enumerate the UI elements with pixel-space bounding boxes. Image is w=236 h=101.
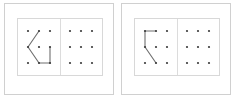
grid-dot-r0c2 <box>208 30 210 32</box>
grid-dot-r2c2 <box>166 62 168 64</box>
grid-dot-r2c2 <box>49 62 51 64</box>
panel-right-figure-cell <box>135 19 177 75</box>
grid-dot-r0c2 <box>49 30 51 32</box>
grid-dot-r1c2 <box>91 46 93 48</box>
grid-dot-r0c1 <box>197 30 199 32</box>
grid-dot-r2c1 <box>155 62 157 64</box>
grid-dot-r0c1 <box>38 30 40 32</box>
figure-lines <box>145 31 156 63</box>
grid-dot-r0c0 <box>186 30 188 32</box>
panel-right-answer-cell[interactable] <box>177 19 219 75</box>
grid-dots <box>186 30 210 64</box>
grid-dot-r1c2 <box>166 46 168 48</box>
grid-dot-r0c1 <box>80 30 82 32</box>
panel-left-inner-box <box>17 18 103 76</box>
panel-right-inner-box <box>134 18 220 76</box>
grid-dot-r0c2 <box>166 30 168 32</box>
grid-dot-r1c0 <box>69 46 71 48</box>
grid-dot-r1c2 <box>49 46 51 48</box>
grid-dot-r0c0 <box>144 30 146 32</box>
panel-right-figure-grid <box>135 19 177 75</box>
grid-dot-r1c1 <box>80 46 82 48</box>
grid-dot-r1c0 <box>27 46 29 48</box>
grid-dot-r2c2 <box>208 62 210 64</box>
grid-dot-r2c0 <box>144 62 146 64</box>
grid-dot-r2c0 <box>27 62 29 64</box>
panel-right-answer-grid <box>177 19 219 75</box>
panel-left-figure-cell <box>18 19 60 75</box>
screenshot-canvas <box>0 0 236 101</box>
grid-dot-r0c1 <box>155 30 157 32</box>
grid-dot-r1c1 <box>38 46 40 48</box>
grid-dots <box>27 30 51 64</box>
grid-dot-r2c2 <box>91 62 93 64</box>
panel-left <box>4 3 114 95</box>
panel-left-figure-grid <box>18 19 60 75</box>
grid-dot-r1c0 <box>144 46 146 48</box>
grid-dot-r2c1 <box>80 62 82 64</box>
grid-dots <box>144 30 168 64</box>
grid-dots <box>69 30 93 64</box>
grid-dot-r0c2 <box>91 30 93 32</box>
panel-right <box>121 3 231 95</box>
grid-dot-r2c1 <box>197 62 199 64</box>
grid-dot-r1c0 <box>186 46 188 48</box>
panel-left-answer-cell[interactable] <box>60 19 102 75</box>
grid-dot-r0c0 <box>69 30 71 32</box>
grid-dot-r0c0 <box>27 30 29 32</box>
grid-dot-r2c1 <box>38 62 40 64</box>
grid-dot-r2c0 <box>69 62 71 64</box>
grid-dot-r1c1 <box>197 46 199 48</box>
panel-left-answer-grid <box>60 19 102 75</box>
grid-dot-r2c0 <box>186 62 188 64</box>
grid-dot-r1c1 <box>155 46 157 48</box>
grid-dot-r1c2 <box>208 46 210 48</box>
